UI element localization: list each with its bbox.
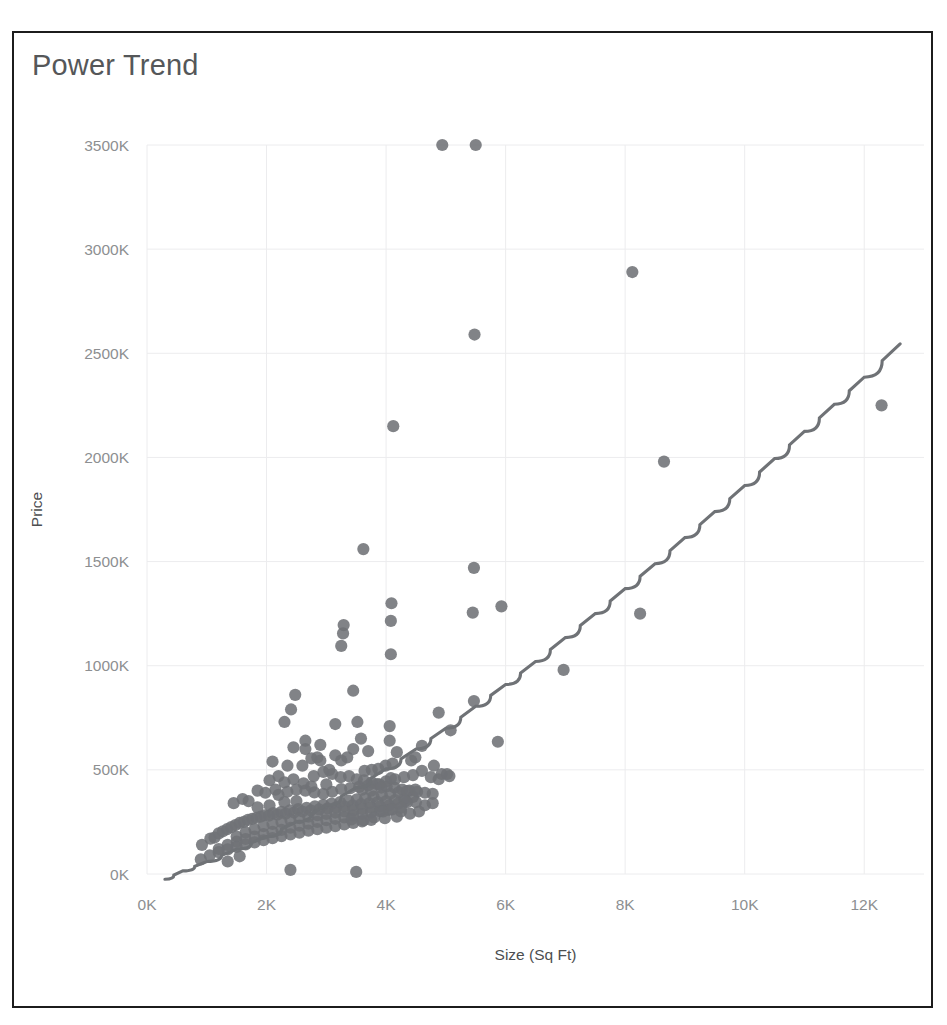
data-point [357,543,369,555]
x-tick-label: 0K [138,896,158,913]
data-point [299,735,311,747]
data-point [278,796,290,808]
data-point [495,600,507,612]
y-axis-tick-labels: 0K500K1000K1500K2000K2500K3000K3500K [84,137,129,883]
data-point [355,733,367,745]
data-point [470,139,482,151]
data-point [467,607,479,619]
y-tick-label: 0K [110,866,130,883]
x-tick-label: 2K [257,896,277,913]
data-point [468,562,480,574]
data-point [441,768,453,780]
data-point [385,772,397,784]
x-tick-label: 6K [496,896,516,913]
data-point [281,760,293,772]
data-point [658,455,670,467]
data-point [251,785,263,797]
data-point [350,866,362,878]
data-point [385,615,397,627]
data-point [285,703,297,715]
data-point [634,608,646,620]
data-point [387,420,399,432]
x-tick-label: 10K [731,896,759,913]
data-point [626,266,638,278]
data-point [557,664,569,676]
scatter-plot: 0K500K1000K1500K2000K2500K3000K3500K 0K2… [14,33,935,1010]
data-point [323,764,335,776]
y-tick-label: 2500K [84,345,129,362]
data-point [329,718,341,730]
y-tick-label: 1500K [84,553,129,570]
data-point [357,814,369,826]
data-point [391,746,403,758]
data-point [395,802,407,814]
data-points-group [195,139,888,878]
data-point [409,784,421,796]
data-point [385,597,397,609]
data-point [335,640,347,652]
gridlines-group [147,145,924,874]
y-axis-title: Price [28,492,45,527]
data-point [263,799,275,811]
data-point [243,795,255,807]
data-point [278,716,290,728]
data-point [347,685,359,697]
data-point [492,736,504,748]
data-point [335,754,347,766]
data-point [290,795,302,807]
data-point [222,855,234,867]
data-point [289,689,301,701]
x-axis-title: Size (Sq Ft) [495,946,577,963]
data-point [305,780,317,792]
data-point [433,706,445,718]
data-point [314,739,326,751]
x-tick-label: 8K [616,896,636,913]
data-point [436,139,448,151]
y-tick-label: 1000K [84,657,129,674]
data-point [384,735,396,747]
data-point [362,745,374,757]
data-point [345,813,357,825]
data-point [410,796,422,808]
data-point [337,627,349,639]
data-point [468,328,480,340]
data-point [196,839,208,851]
x-tick-label: 12K [850,896,878,913]
chart-page: Power Trend 0K500K1000K1500K2000K2500K30… [0,0,947,1025]
data-point [266,755,278,767]
data-point [351,716,363,728]
y-tick-label: 3000K [84,241,129,258]
data-point [284,864,296,876]
data-point [296,760,308,772]
data-point [287,741,299,753]
y-tick-label: 2000K [84,449,129,466]
y-tick-label: 3500K [84,137,129,154]
data-point [320,778,332,790]
data-point [234,850,246,862]
data-point [875,399,887,411]
x-tick-label: 4K [377,896,397,913]
data-point [385,648,397,660]
data-point [375,781,387,793]
x-axis-tick-labels: 0K2K4K6K8K10K12K [138,896,879,913]
y-tick-label: 500K [93,761,130,778]
data-point [427,797,439,809]
data-point [384,720,396,732]
data-point [347,743,359,755]
data-point [311,751,323,763]
chart-frame: Power Trend 0K500K1000K1500K2000K2500K30… [12,31,933,1008]
